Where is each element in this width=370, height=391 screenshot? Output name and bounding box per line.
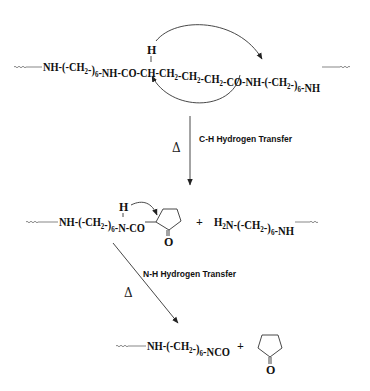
wavy-bond-right xyxy=(322,66,350,68)
ring-oxygen: O xyxy=(164,235,173,249)
isocyanate-segment: -) xyxy=(193,342,200,356)
step-1: Δ C-H Hydrogen Transfer xyxy=(172,116,293,185)
ring-oxygen: O xyxy=(266,363,275,377)
plus-sign: + xyxy=(237,339,244,353)
chain-segment: -CH xyxy=(178,69,198,83)
amine-segment: -NH xyxy=(274,224,294,238)
hydrogen-shift-arrow xyxy=(131,202,157,215)
isocyanate-segment: NH-(-CH xyxy=(147,339,190,353)
step-label: C-H Hydrogen Transfer xyxy=(199,134,293,144)
wavy-bond-right xyxy=(295,221,318,223)
chain-segment: -CO-NH-(-CH xyxy=(223,75,288,89)
alpha-hydrogen: H xyxy=(147,43,157,57)
polymer-chain-formula: NH-(-CH2-)6-NH-CO-CH-CH2-CH2-CH2-CO-NH-(… xyxy=(43,60,321,95)
chain-segment: -NH-CO-CH-CH xyxy=(98,66,175,80)
chain-segment: NH-(-CH xyxy=(43,60,85,74)
chain-segment: -CH xyxy=(201,72,221,86)
wavy-bond-left xyxy=(26,221,58,223)
amide-segment: -N-CO xyxy=(115,221,145,235)
hydrogen-transfer-arrow-upper xyxy=(156,25,262,59)
product-row: NH-(-CH2-)6-NCO + O xyxy=(116,335,282,377)
isocyanate-formula: NH-(-CH2-)6-NCO xyxy=(147,339,230,359)
plus-sign: + xyxy=(196,215,203,229)
cyclopentanone-ring xyxy=(258,335,282,357)
intermediate-row: NH-(-CH2-)6-N-CO H O + H2N-(-CH2-)6-NH xyxy=(26,200,318,249)
chain-segment: -NH xyxy=(301,81,321,95)
heat-symbol: Δ xyxy=(124,286,133,300)
amine-segment: N-(-CH xyxy=(226,218,261,232)
chain-segment: -) xyxy=(88,63,95,77)
reaction-arrow-diagonal xyxy=(113,243,178,323)
chain-segment: -) xyxy=(291,78,298,92)
amine-chain-formula: H2N-(-CH2-)6-NH xyxy=(214,215,295,238)
amide-segment: NH-(-CH xyxy=(59,215,101,229)
reaction-scheme: NH-(-CH2-)6-NH-CO-CH-CH2-CH2-CH2-CO-NH-(… xyxy=(0,0,370,391)
amide-chain-formula: NH-(-CH2-)6-N-CO xyxy=(59,215,145,235)
step-label: N-H Hydrogen Transfer xyxy=(143,269,237,279)
heat-symbol: Δ xyxy=(172,141,181,155)
isocyanate-segment: -NCO xyxy=(203,345,230,359)
step-2: Δ N-H Hydrogen Transfer xyxy=(113,243,237,323)
amide-hydrogen: H xyxy=(119,200,129,214)
wavy-bond-left xyxy=(116,345,146,347)
polymer-chain-row: NH-(-CH2-)6-NH-CO-CH-CH2-CH2-CH2-CO-NH-(… xyxy=(14,25,350,103)
cyclopentanone-ring xyxy=(156,209,181,230)
amine-segment: -) xyxy=(264,221,271,235)
wavy-bond-left xyxy=(14,66,42,68)
amide-segment: -) xyxy=(104,218,111,232)
